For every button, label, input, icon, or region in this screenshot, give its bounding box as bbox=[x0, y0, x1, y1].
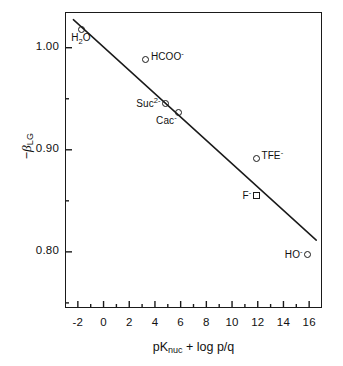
data-point-label: HO- bbox=[285, 249, 303, 260]
x-tick-label: 10 bbox=[219, 316, 245, 328]
x-tick-label: 8 bbox=[193, 316, 219, 328]
x-axis-title-pk: pK bbox=[153, 340, 168, 354]
x-tick-label: 4 bbox=[142, 316, 168, 328]
y-axis-title-beta: β bbox=[19, 145, 34, 152]
x-tick-label: 12 bbox=[245, 316, 271, 328]
x-tick-label: 0 bbox=[91, 316, 117, 328]
plot-frame bbox=[65, 12, 322, 308]
x-tick-label: 2 bbox=[116, 316, 142, 328]
x-tick-label: 14 bbox=[270, 316, 296, 328]
x-tick-label: 6 bbox=[168, 316, 194, 328]
figure-container: 1.000.900.80 -20246810121416 H2OHCOO-Suc… bbox=[0, 0, 343, 366]
x-tick-label: 16 bbox=[296, 316, 322, 328]
data-point-label: HCOO- bbox=[151, 51, 184, 62]
y-tick-label: 0.80 bbox=[19, 244, 59, 256]
x-axis-title-subscript: nuc bbox=[168, 345, 183, 355]
y-axis-title: −βLG bbox=[19, 111, 35, 181]
data-point-label: Suc2- bbox=[136, 98, 160, 109]
x-axis-title: pKnuc + log p/q bbox=[65, 340, 322, 355]
x-tick-label: -2 bbox=[65, 316, 91, 328]
data-point-label: TFE- bbox=[261, 150, 283, 161]
data-point-label: H2O bbox=[71, 32, 91, 43]
y-tick-label: 1.00 bbox=[19, 40, 59, 52]
y-axis-title-minus: − bbox=[20, 152, 34, 159]
x-axis-title-rest: + log p/q bbox=[183, 340, 235, 354]
y-axis-title-subscript: LG bbox=[25, 133, 35, 145]
data-point-label: F- bbox=[242, 190, 251, 201]
data-point-label: Cac- bbox=[156, 115, 177, 126]
data-point-marker bbox=[253, 192, 260, 199]
